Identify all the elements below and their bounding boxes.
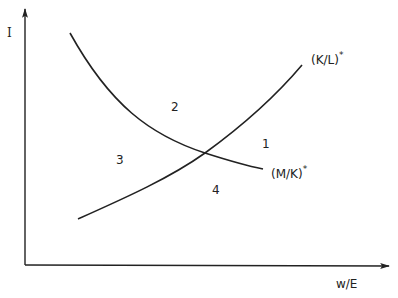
mk-curve-label-text: (M/K): [271, 167, 303, 181]
x-axis: [25, 265, 389, 266]
kl-curve-label-text: (K/L): [311, 53, 339, 67]
mk-curve: [70, 33, 263, 169]
mk-curve-label-star: *: [303, 164, 308, 174]
mk-curve-label: (M/K)*: [271, 164, 308, 181]
region-1-label: 1: [262, 137, 270, 151]
kl-curve-label-star: *: [339, 50, 344, 60]
x-axis-label: w/E: [336, 277, 357, 291]
region-2-label: 2: [171, 100, 179, 114]
region-4-label: 4: [212, 183, 220, 197]
y-axis-label: I: [7, 26, 12, 40]
region-3-label: 3: [116, 153, 124, 167]
diagram-canvas: I w/E (K/L)* (M/K)* 1 2 3 4: [0, 0, 398, 298]
kl-curve-label: (K/L)*: [311, 50, 344, 67]
